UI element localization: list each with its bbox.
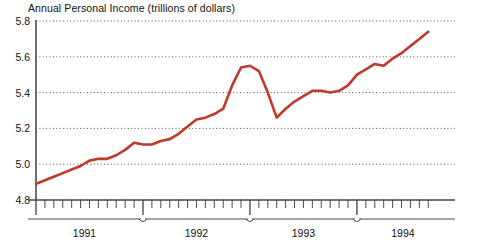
x-year-label: 1993 [292,227,316,239]
x-year-label: 1994 [391,227,415,239]
year-brackets [28,219,455,222]
gridlines-group [36,21,455,200]
y-tick-labels: 4.85.05.25.45.65.8 [15,15,30,206]
x-tick-marks [36,200,428,215]
y-tick-label: 5.8 [15,15,30,27]
data-series-line [36,32,428,184]
x-year-label: 1992 [185,227,209,239]
x-year-label: 1991 [73,227,97,239]
y-tick-label: 5.4 [15,87,30,99]
y-tick-label: 5.0 [15,158,30,170]
y-tick-label: 5.2 [15,122,30,134]
y-tick-label: 5.6 [15,51,30,63]
chart-plot-area: 4.85.05.25.45.65.8 1991199219931994 [0,0,480,251]
y-tick-label: 4.8 [15,194,30,206]
personal-income-line [36,32,428,184]
x-tick-labels: 1991199219931994 [73,227,415,239]
chart-container: Annual Personal Income (trillions of dol… [0,0,480,251]
